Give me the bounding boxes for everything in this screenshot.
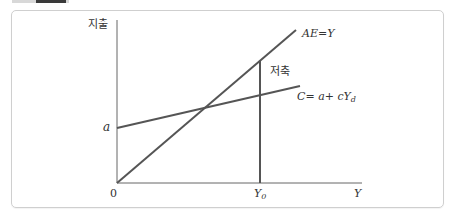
keynesian-cross-diagram: 지출 AE=Y 저축 C= a+ cYd a 0 Y0 Y xyxy=(0,0,453,219)
consumption-line-label: C= a+ cYd xyxy=(297,90,356,104)
ae-line-label: AE=Y xyxy=(301,27,336,40)
savings-label: 저축 xyxy=(270,65,290,78)
y0-label: Y0 xyxy=(254,187,266,201)
x-axis-label: Y xyxy=(354,187,363,200)
y-axis-label: 지출 xyxy=(88,18,108,31)
origin-label: 0 xyxy=(110,187,117,200)
intercept-label: a xyxy=(103,120,110,134)
consumption-line xyxy=(117,86,300,128)
